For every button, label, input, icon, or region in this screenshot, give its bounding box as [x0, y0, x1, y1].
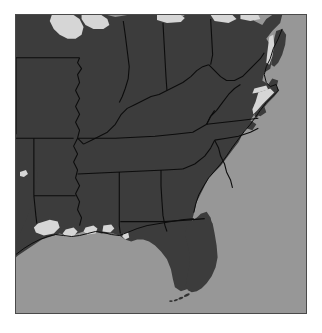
map-page	[0, 0, 322, 333]
raster-texture-overlay	[16, 15, 306, 313]
map-viewport[interactable]	[15, 14, 307, 314]
map-canvas[interactable]	[16, 15, 306, 313]
